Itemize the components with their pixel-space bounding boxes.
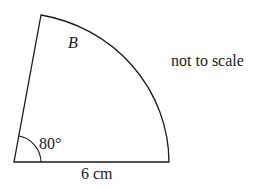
sector-label: B xyxy=(68,34,78,51)
sector-outline xyxy=(14,15,169,162)
angle-arc xyxy=(19,136,41,162)
angle-label: 80° xyxy=(39,135,61,152)
sector-diagram: B 80° 6 cm not to scale xyxy=(0,0,260,187)
radius-label: 6 cm xyxy=(81,165,113,182)
not-to-scale-note: not to scale xyxy=(171,52,244,69)
